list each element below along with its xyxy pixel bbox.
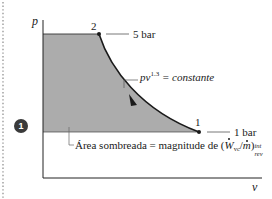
step-badge: 1 bbox=[14, 119, 28, 133]
w-dot-symbol: W bbox=[224, 140, 233, 151]
state-label-2: 2 bbox=[91, 21, 97, 32]
process-equation: pv1.3 = constante bbox=[140, 71, 214, 83]
pressure-label-5bar: 5 bar bbox=[133, 29, 155, 40]
state-point-1 bbox=[197, 130, 201, 134]
subscript-rev: rev bbox=[254, 151, 262, 158]
shaded-area-caption: Área sombreada = magnitude de (Wvc/m)int… bbox=[75, 139, 268, 153]
m-dot-symbol: m bbox=[243, 140, 251, 151]
subscript-int: int bbox=[254, 143, 261, 150]
equation-exponent: 1.3 bbox=[150, 70, 159, 78]
caption-prefix: Área sombreada = magnitude de ( bbox=[75, 139, 224, 151]
y-axis-label: p bbox=[32, 15, 38, 27]
subscript-stack: intrev bbox=[254, 139, 268, 149]
x-axis-label: v bbox=[252, 181, 257, 193]
equation-base: pv bbox=[140, 71, 150, 83]
equation-rest: = constante bbox=[159, 71, 214, 83]
state-label-1: 1 bbox=[195, 117, 201, 128]
state-point-2 bbox=[97, 32, 101, 36]
pressure-label-1bar: 1 bar bbox=[234, 127, 256, 138]
shaded-area bbox=[43, 34, 199, 132]
